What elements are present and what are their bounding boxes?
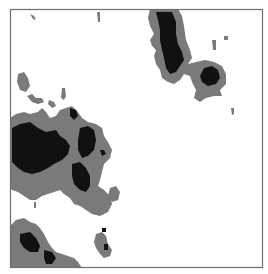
phase-map-figure: [0, 0, 268, 274]
phase-map-canvas: [0, 0, 268, 274]
